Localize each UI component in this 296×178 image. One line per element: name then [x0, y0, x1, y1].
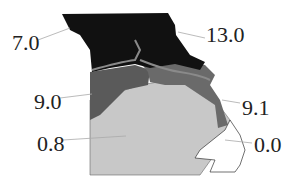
region-north	[62, 13, 205, 72]
label-central-west: 9.0	[34, 91, 62, 113]
label-north: 7.0	[12, 32, 40, 54]
label-central-east: 9.1	[242, 97, 270, 119]
label-northeast: 13.0	[206, 24, 245, 46]
label-bootheel: 0.0	[254, 134, 282, 156]
label-south: 0.8	[37, 133, 65, 155]
